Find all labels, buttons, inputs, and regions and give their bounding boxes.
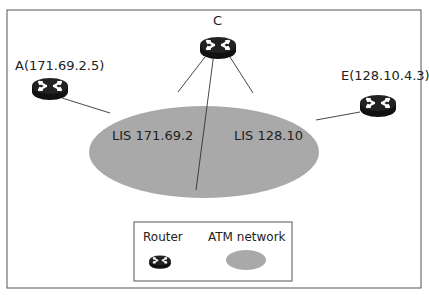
router-a-icon	[32, 78, 68, 100]
network-diagram: A(171.69.2.5) C E(128.10.4.3) LIS 171.69…	[0, 0, 429, 295]
router-e-icon	[360, 95, 396, 117]
router-c-icon	[200, 37, 236, 59]
link-c-right	[230, 57, 253, 93]
legend-atm-icon	[226, 250, 266, 270]
router-c-label: C	[213, 13, 222, 28]
legend-router-icon	[149, 256, 171, 269]
atm-network-ellipse	[89, 106, 319, 198]
link-c-left	[178, 57, 205, 92]
link-a	[62, 98, 110, 113]
router-a-label: A(171.69.2.5)	[15, 58, 104, 73]
link-e	[316, 112, 360, 120]
legend-router-label: Router	[143, 230, 183, 244]
legend-atm-label: ATM network	[208, 230, 286, 244]
router-e-label: E(128.10.4.3)	[341, 68, 429, 83]
lis-left-label: LIS 171.69.2	[112, 128, 193, 143]
lis-right-label: LIS 128.10	[234, 128, 303, 143]
